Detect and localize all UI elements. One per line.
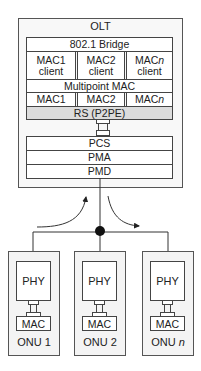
upstream-arrow-icon bbox=[37, 197, 86, 227]
onu-n-connector-stem bbox=[164, 304, 171, 312]
onu-1-mac: MAC bbox=[16, 316, 51, 331]
onu-n-mac: MAC bbox=[150, 316, 185, 331]
onu-2-phy: PHY bbox=[82, 261, 117, 301]
onu-2-mac: MAC bbox=[82, 316, 117, 331]
downstream-arrow-icon bbox=[108, 196, 139, 226]
splitter-node-icon bbox=[95, 226, 105, 236]
onu-2-connector-stem bbox=[96, 304, 103, 312]
onu-1-phy: PHY bbox=[16, 261, 51, 301]
onu-1-label: ONU 1 bbox=[8, 336, 60, 348]
onu-n-phy: PHY bbox=[150, 261, 185, 301]
onu-2-label: ONU 2 bbox=[74, 336, 126, 348]
onu-n-label: ONU n bbox=[142, 336, 194, 348]
onu-1-connector-stem bbox=[30, 304, 37, 312]
